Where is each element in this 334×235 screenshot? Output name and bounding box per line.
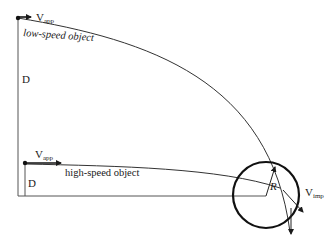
d-bottom-label: D [28, 177, 36, 189]
v-app-mid-label: Vapp [35, 148, 54, 162]
v-imp-label: Vimp [305, 186, 324, 200]
radius-label: R [269, 180, 277, 192]
high-speed-trajectory [25, 164, 280, 188]
low-speed-trajectory [18, 18, 290, 232]
trajectory-diagram: Vapp low-speed object D Vapp high-speed … [0, 0, 334, 235]
d-top-label: D [22, 73, 30, 85]
low-speed-label: low-speed object [23, 27, 96, 43]
v-app-top-label: Vapp [36, 11, 55, 25]
high-speed-label: high-speed object [65, 167, 139, 178]
